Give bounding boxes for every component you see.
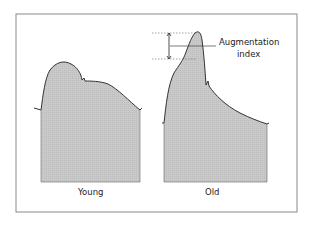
annotation-line2: index xyxy=(237,49,260,59)
annotation-line1: Augmentation xyxy=(219,37,279,47)
old-label: Old xyxy=(205,187,219,197)
young-label: Young xyxy=(77,187,103,197)
pulse-wave-diagram: Augmentation index Young Old xyxy=(0,0,311,225)
